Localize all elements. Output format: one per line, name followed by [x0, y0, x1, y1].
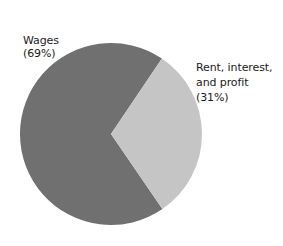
- pie-chart: Wages (69%) Rent, interest, and profit (…: [0, 0, 283, 246]
- rent-label-percent: (31%): [196, 90, 272, 105]
- rent-label-line1: Rent, interest,: [196, 60, 272, 75]
- rent-interest-profit-label: Rent, interest, and profit (31%): [196, 60, 272, 105]
- wages-label: Wages (69%): [23, 34, 59, 60]
- rent-label-line2: and profit: [196, 75, 272, 90]
- wages-label-percent: (69%): [23, 47, 59, 60]
- wages-label-name: Wages: [23, 34, 59, 47]
